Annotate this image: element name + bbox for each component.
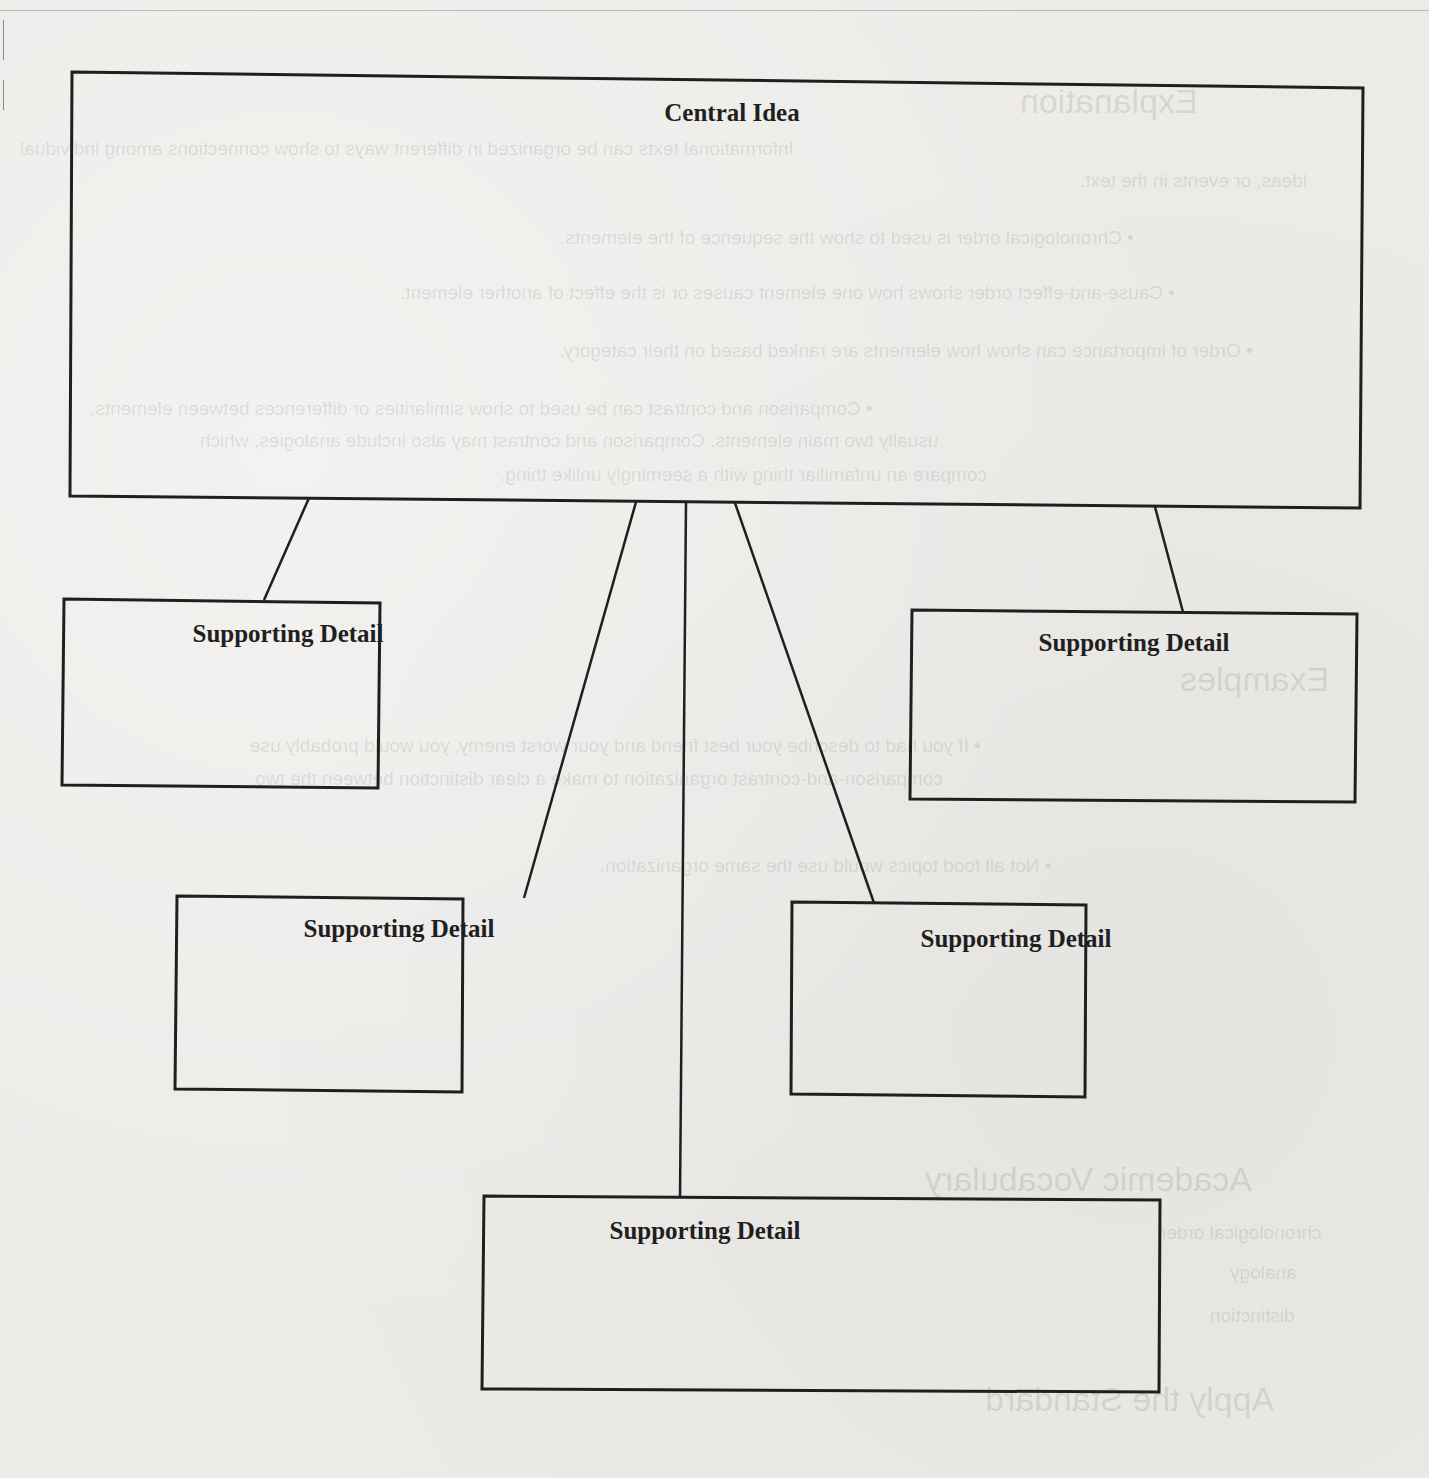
supporting-detail-label-2: Supporting Detail (1038, 629, 1229, 657)
central-idea-box (70, 72, 1363, 508)
organizer-diagram (0, 0, 1429, 1478)
connector-line-4 (735, 503, 874, 903)
supporting-detail-label-3: Supporting Detail (303, 915, 494, 943)
supporting-detail-label-5: Supporting Detail (609, 1217, 800, 1245)
connector-line-2 (1155, 507, 1183, 612)
supporting-detail-label-4: Supporting Detail (920, 925, 1111, 953)
supporting-detail-box-5 (482, 1196, 1160, 1392)
connector-line-3 (524, 502, 636, 898)
central-idea-label: Central Idea (664, 99, 799, 127)
supporting-detail-label-1: Supporting Detail (192, 620, 383, 648)
connector-line-5 (680, 503, 686, 1198)
connector-line-1 (264, 498, 309, 600)
